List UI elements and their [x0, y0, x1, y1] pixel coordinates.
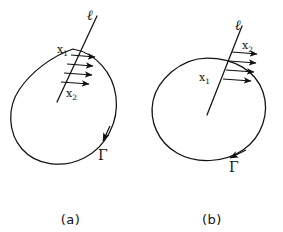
- curve-label-gamma-b: Γ: [229, 160, 239, 174]
- panel-b-caption: (b): [141, 213, 283, 226]
- point-label-x1-b: x1: [199, 72, 210, 86]
- panel-b: ℓ x2 x1 Γ (b): [141, 0, 283, 232]
- point-label-x1-b-sub: 1: [205, 77, 210, 86]
- line-ell-a: [57, 16, 97, 102]
- point-label-x2-b: x2: [242, 40, 253, 54]
- vector-arrows-b: [223, 52, 257, 81]
- figure-root: ℓ x1 x2 Γ (a): [0, 0, 283, 232]
- line-label-b: ℓ: [235, 18, 241, 32]
- panel-a: ℓ x1 x2 Γ (a): [0, 0, 141, 232]
- panel-a-caption: (a): [0, 213, 141, 226]
- vector-arrows-a: [61, 55, 95, 84]
- panel-a-drawing: [0, 0, 141, 232]
- point-label-x2-a: x2: [66, 88, 77, 102]
- curve-label-gamma-a: Γ: [98, 148, 108, 162]
- point-label-x1-a: x1: [57, 44, 68, 58]
- point-label-x1-a-sub: 1: [63, 49, 68, 58]
- point-label-x2-a-sub: 2: [72, 93, 77, 102]
- point-label-x2-b-sub: 2: [248, 45, 253, 54]
- panel-b-drawing: [141, 0, 283, 232]
- line-label-a: ℓ: [87, 8, 93, 22]
